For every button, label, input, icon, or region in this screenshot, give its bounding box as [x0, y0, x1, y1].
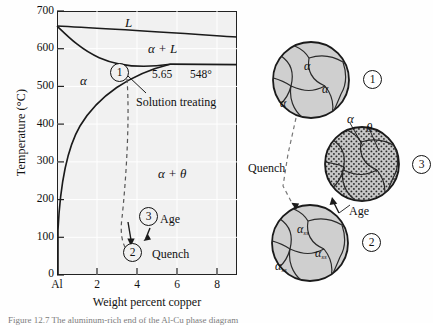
field-label-liquid: L	[125, 15, 132, 31]
age-arrowhead-right	[330, 197, 338, 205]
figure-caption: Figure 12.7 The aluminum-rich end of the…	[8, 315, 428, 325]
eutectic-temperature-label: 548°	[190, 68, 212, 80]
micrographs-panel: α α α	[255, 0, 433, 323]
field-label-alpha-plus-liquid: α + L	[148, 41, 177, 57]
phase-diagram-panel: 700 600 500 400 300 200 100 0 Al 2 4 6 8…	[0, 0, 255, 323]
age-label-right: Age	[349, 204, 369, 219]
c1-grain-label-1: α	[304, 59, 311, 73]
diagram-curves	[0, 0, 255, 323]
micrograph-marker-1[interactable]: 1	[363, 70, 382, 89]
c1-grain-label-2: α	[322, 82, 329, 96]
micrograph-marker-3[interactable]: 3	[412, 155, 431, 174]
solvus-curve	[58, 64, 170, 230]
marker-3[interactable]: 3	[139, 207, 158, 226]
age-arrow-line-right	[334, 203, 339, 213]
micrograph-circle-1: α α α	[265, 42, 349, 119]
marker-2[interactable]: 2	[123, 243, 142, 262]
solution-treating-label: Solution treating	[136, 95, 216, 110]
marker-1[interactable]: 1	[110, 63, 129, 82]
quench-label: Quench	[152, 247, 189, 262]
age-label: Age	[160, 212, 180, 227]
quench-label-right: Quench	[248, 161, 285, 176]
c1-grain-label-3: α	[280, 96, 287, 110]
c3-alpha-label: α	[347, 111, 354, 127]
micrograph-circle-3	[317, 123, 399, 202]
process-path-dashed	[121, 79, 128, 250]
eutectic-composition-label: 5.65	[152, 68, 172, 80]
liquidus-curve	[57, 26, 237, 37]
field-label-alpha: α	[80, 73, 87, 89]
field-label-alpha-plus-theta: α + θ	[158, 166, 186, 182]
c3-theta-label: θ	[366, 120, 372, 136]
micrograph-circle-2: αss αss αss	[264, 205, 348, 282]
micrograph-marker-2[interactable]: 2	[362, 233, 381, 252]
